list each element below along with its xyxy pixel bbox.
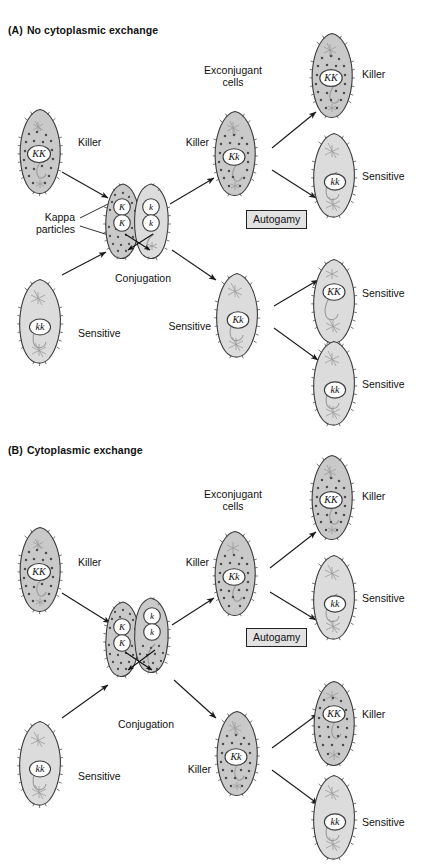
genotype-label: Kk [229, 751, 242, 762]
cell-b-out1: KK [310, 456, 355, 541]
conjugation-label-b: Conjugation [118, 718, 174, 730]
genotype-label: kk [331, 384, 340, 395]
conjugant-left: K K [103, 601, 139, 678]
arrow-conjugation-to-exconjugant-bottom [172, 250, 216, 280]
nucleus-label-2: K [118, 218, 126, 228]
conjugation-pair-a: K K k k [103, 183, 171, 260]
cell-b-parent-killer: KK [18, 528, 63, 615]
arrow-exconjugant-top-to-out2 [272, 170, 316, 198]
label-out4-b: Sensitive [362, 816, 405, 828]
arrow-parent-sensitive-to-conjugation [62, 252, 106, 275]
label-exconjugant-sensitive-a: Sensitive [168, 320, 211, 332]
arrow-parent-killer-to-conjugation [62, 172, 108, 198]
arrow-exconjugant-bottom-to-out4 [272, 770, 318, 804]
nucleus-label-1: K [118, 202, 126, 212]
autogamy-box-a: Autogamy [246, 210, 307, 229]
cell-a-out4: kk [311, 342, 357, 427]
genotype-label: kk [36, 321, 45, 332]
cell-b-out3: KK [312, 682, 357, 767]
label-out3-a: Sensitive [362, 287, 405, 299]
genotype-label: KK [326, 708, 342, 719]
genotype-label: KK [323, 72, 339, 83]
exconjugant-cells-label-b: Exconjugant cells [204, 488, 262, 512]
genotype-label: Kk [227, 151, 240, 162]
exconjugant-line1: Exconjugant [204, 64, 262, 76]
cell-b-out4: kk [311, 776, 357, 861]
label-out3-b: Killer [362, 708, 385, 720]
label-parent-sensitive-a: Sensitive [78, 327, 121, 339]
arrow-exconjugant-top-to-out2 [270, 592, 316, 620]
nucleus-label-2: K [118, 638, 126, 648]
autogamy-box-b: Autogamy [246, 628, 307, 647]
cell-b-exconjugant-killer-top: Kk [213, 532, 258, 617]
conjugation-pair-b: K K k k [103, 597, 171, 678]
conjugant-left: K K [103, 183, 139, 260]
label-out2-b: Sensitive [362, 592, 405, 604]
genotype-label: KK [31, 148, 47, 159]
cell-a-exconjugant-sensitive: Kk [214, 274, 260, 359]
label-out1-b: Killer [362, 490, 385, 502]
label-exconjugant-killer-a: Killer [186, 136, 209, 148]
genotype-label: KK [326, 286, 342, 297]
label-out1-a: Killer [362, 68, 385, 80]
conjugant-right: k k [135, 597, 171, 674]
arrow-parent-killer-to-conjugation [62, 593, 110, 623]
genotype-label: kk [331, 598, 340, 609]
panel-a: (A)No cytoplasmic exchange [0, 0, 421, 430]
arrow-exconjugant-bottom-to-out4 [274, 328, 318, 360]
kappa-particles-label: Kappa particles [36, 211, 75, 235]
exconjugant-line2: cells [222, 76, 243, 88]
label-out4-a: Sensitive [362, 378, 405, 390]
arrow-conjugation-to-exconjugant-top [172, 598, 214, 625]
genotype-label: Kk [227, 571, 240, 582]
conjugation-label-a: Conjugation [115, 272, 171, 284]
cell-outline [314, 260, 355, 344]
cell-b-parent-sensitive: kk [17, 722, 63, 809]
genotype-label: kk [331, 816, 340, 827]
arrow-parent-sensitive-to-conjugation [62, 685, 108, 718]
genotype-label: kk [331, 176, 340, 187]
cell-a-parent-sensitive: kk [17, 280, 63, 367]
genotype-label: KK [31, 566, 47, 577]
arrow-conjugation-to-exconjugant-top [170, 178, 214, 204]
arrow-exconjugant-bottom-to-out3 [272, 714, 318, 748]
cell-a-out3: KK [311, 260, 357, 345]
label-parent-sensitive-b: Sensitive [78, 770, 121, 782]
conjugant-right: k k [135, 183, 171, 260]
nucleus-label-1: K [118, 622, 126, 632]
exconjugant-line2: cells [222, 500, 243, 512]
arrow-exconjugant-top-to-out1 [272, 112, 316, 148]
cell-a-out1: KK [310, 34, 355, 119]
kappa-line1: Kappa [45, 211, 75, 223]
label-out2-a: Sensitive [362, 170, 405, 182]
cell-a-exconjugant-killer: Kk [213, 112, 258, 197]
cell-a-out2: kk [311, 134, 357, 219]
exconjugant-cells-label-a: Exconjugant cells [204, 64, 262, 88]
genotype-label: KK [323, 494, 339, 505]
label-exconjugant-killer-bottom-b: Killer [188, 763, 211, 775]
arrow-conjugation-to-exconjugant-bottom [174, 680, 216, 718]
label-exconjugant-killer-top-b: Killer [186, 556, 209, 568]
cell-b-exconjugant-killer-bottom: Kk [215, 712, 260, 797]
arrow-exconjugant-top-to-out1 [270, 532, 316, 568]
label-parent-killer-b: Killer [78, 556, 101, 568]
exconjugant-line1: Exconjugant [204, 488, 262, 500]
cell-b-out2: kk [311, 556, 357, 641]
genotype-label: kk [36, 763, 45, 774]
label-parent-killer-a: Killer [78, 136, 101, 148]
paramecium-kappa-figure: (A)No cytoplasmic exchange [0, 0, 421, 866]
cell-a-parent-killer: KK [18, 110, 63, 197]
genotype-label: Kk [231, 314, 244, 325]
arrow-exconjugant-bottom-to-out3 [274, 280, 318, 306]
panel-b: (B)Cytoplasmic exchange [0, 430, 421, 866]
kappa-line2: particles [36, 223, 75, 235]
